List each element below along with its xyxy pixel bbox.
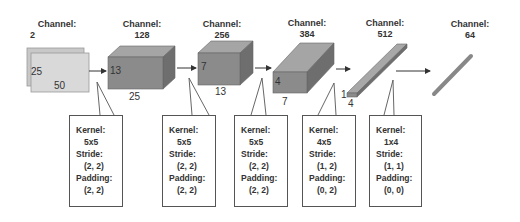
channel-value: 2 <box>27 30 87 41</box>
stride-value: (1, 1) <box>376 160 417 172</box>
stride-label: Stride: <box>376 148 417 160</box>
kernel-value: 1x4 <box>376 136 417 148</box>
padding-value: (0, 0) <box>376 184 417 196</box>
kernel-value: 5x5 <box>76 136 118 148</box>
conv5-params-callout: Kernel: 1x4 Stride: (1, 1) Padding: (0, … <box>369 115 422 207</box>
kernel-label: Kernel: <box>169 124 211 136</box>
channel-value: 256 <box>192 30 252 41</box>
channel-label-conv3: Channel: 384 <box>277 18 337 40</box>
conv4-height-label: 1 <box>341 89 347 100</box>
conv1-height-label: 13 <box>110 65 121 76</box>
input-height-label: 25 <box>31 66 42 77</box>
padding-label: Padding: <box>309 172 351 184</box>
channel-label-conv4: Channel: 512 <box>355 18 415 40</box>
conv2-height-label: 7 <box>201 61 207 72</box>
padding-value: (2, 2) <box>169 184 211 196</box>
padding-value: (2, 2) <box>241 184 283 196</box>
conv2-params-callout: Kernel: 5x5 Stride: (2, 2) Padding: (2, … <box>162 115 216 207</box>
stride-value: (2, 2) <box>241 160 283 172</box>
cnn-architecture-diagram: Channel: 2 Channel: 128 Channel: 256 Cha… <box>0 0 520 222</box>
padding-label: Padding: <box>241 172 283 184</box>
channel-caption: Channel: <box>112 19 172 30</box>
channel-value: 64 <box>440 30 500 41</box>
channel-caption: Channel: <box>277 18 337 29</box>
padding-label: Padding: <box>169 172 211 184</box>
padding-label: Padding: <box>76 172 118 184</box>
stride-value: (1, 2) <box>309 160 351 172</box>
conv1-params-callout: Kernel: 5x5 Stride: (2, 2) Padding: (2, … <box>69 115 123 207</box>
stride-label: Stride: <box>241 148 283 160</box>
channel-caption: Channel: <box>27 19 87 30</box>
channel-value: 384 <box>277 29 337 40</box>
stride-label: Stride: <box>169 148 211 160</box>
kernel-value: 5x5 <box>241 136 283 148</box>
padding-label: Padding: <box>376 172 417 184</box>
padding-value: (2, 2) <box>76 184 118 196</box>
conv3-params-callout: Kernel: 5x5 Stride: (2, 2) Padding: (2, … <box>234 115 288 207</box>
stride-value: (2, 2) <box>76 160 118 172</box>
conv2-width-label: 13 <box>215 86 226 97</box>
output-bar-shape <box>434 56 471 94</box>
kernel-label: Kernel: <box>309 124 351 136</box>
channel-label-conv2: Channel: 256 <box>192 19 252 41</box>
stride-value: (2, 2) <box>169 160 211 172</box>
channel-label-input: Channel: 2 <box>27 19 87 41</box>
channel-value: 512 <box>355 29 415 40</box>
stride-label: Stride: <box>309 148 351 160</box>
conv3-width-label: 7 <box>282 96 288 107</box>
kernel-label: Kernel: <box>241 124 283 136</box>
input-width-label: 50 <box>54 80 65 91</box>
stride-label: Stride: <box>76 148 118 160</box>
conv1-width-label: 25 <box>129 91 140 102</box>
channel-caption: Channel: <box>440 19 500 30</box>
conv3-block-shape <box>273 43 334 93</box>
conv4-params-callout: Kernel: 4x5 Stride: (1, 2) Padding: (0, … <box>302 115 356 207</box>
kernel-value: 5x5 <box>169 136 211 148</box>
channel-label-output: Channel: 64 <box>440 19 500 41</box>
conv4-width-label: 4 <box>348 98 354 109</box>
kernel-label: Kernel: <box>76 124 118 136</box>
channel-caption: Channel: <box>355 18 415 29</box>
padding-value: (0, 2) <box>309 184 351 196</box>
conv3-height-label: 4 <box>275 76 281 87</box>
kernel-label: Kernel: <box>376 124 417 136</box>
kernel-value: 4x5 <box>309 136 351 148</box>
channel-label-conv1: Channel: 128 <box>112 19 172 41</box>
channel-value: 128 <box>112 30 172 41</box>
channel-caption: Channel: <box>192 19 252 30</box>
